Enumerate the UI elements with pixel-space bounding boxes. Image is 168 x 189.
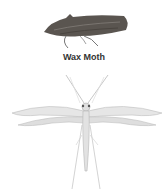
wax-moth-illustration [40,8,132,48]
wax-moth-caption: Wax Moth [0,52,168,62]
plume-moth-illustration [0,75,168,189]
